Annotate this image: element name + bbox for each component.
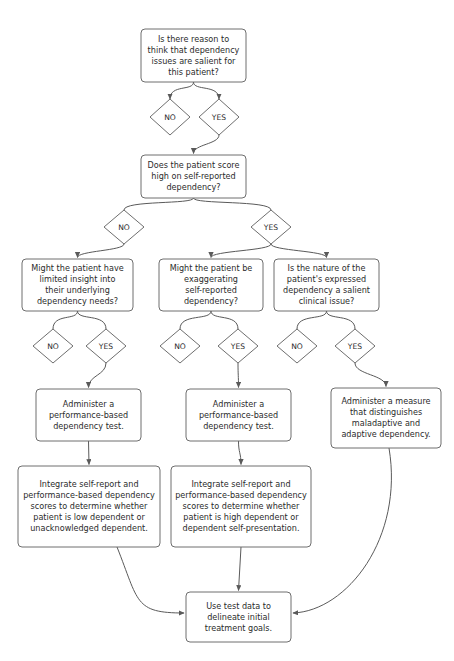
edge-q3a-yes-to-action-a (89, 363, 107, 388)
node-layer: Is there reason tothink that dependencyi… (18, 29, 441, 642)
edge-q2-to-q2-yes (194, 198, 272, 210)
node-text-line: Might the patient have (31, 263, 123, 273)
node-text-line: Integrate self-report and (191, 479, 290, 489)
node-text-line: clinical issue? (299, 296, 355, 306)
diamond-label: NO (47, 342, 59, 351)
node-text-line: limited insight into (40, 274, 116, 284)
flowchart-canvas: Is there reason tothink that dependencyi… (0, 0, 454, 661)
node-text-line: self-reported (185, 285, 237, 295)
node-text-line: scores to determine whether (183, 501, 301, 511)
node-text-line: performance-based dependency (23, 490, 155, 500)
edge-q3c-yes-to-action-c (355, 363, 386, 387)
node-action-b: Administer aperformance-baseddependency … (186, 389, 291, 441)
node-text-line: maladaptive and (352, 418, 420, 428)
node-q3c-yes: YES (335, 329, 375, 363)
node-text-line: dependency test. (203, 421, 274, 431)
edge-q3a-to-q3a-no (53, 311, 78, 329)
node-text-line: Does the patient score (148, 160, 240, 170)
edge-q2-to-q2-no (124, 198, 194, 210)
node-text-line: dependency needs? (37, 296, 118, 306)
node-text-line: Administer a (63, 399, 114, 409)
node-text-line: adaptive dependency. (341, 429, 430, 439)
edge-q3b-to-q3b-yes (211, 311, 238, 329)
edge-q3b-yes-to-action-b (238, 363, 239, 388)
edge-q1-yes-to-q2 (194, 135, 220, 154)
node-q3b-no: NO (160, 329, 200, 363)
flowchart-container: Is there reason tothink that dependencyi… (0, 0, 454, 661)
node-text-line: Administer a measure (341, 396, 430, 406)
node-final: Use test data todelineate initialtreatme… (186, 592, 291, 642)
node-text-line: dependency? (166, 182, 220, 192)
node-integrate-a: Integrate self-report andperformance-bas… (18, 466, 160, 547)
node-q3a-yes: YES (86, 329, 126, 363)
node-text-line: Integrate self-report and (39, 479, 138, 489)
node-text-line: scores to determine whether (31, 501, 149, 511)
node-text-line: Use test data to (206, 601, 271, 611)
node-q3a: Might the patient havelimited insight in… (22, 259, 133, 311)
edge-q1-to-q1-no (170, 82, 194, 99)
node-text-line: dependency? (184, 296, 238, 306)
edge-q3b-to-q3b-no (180, 311, 211, 329)
diamond-label: NO (118, 223, 130, 232)
node-text-line: patient is low dependent or (33, 512, 145, 522)
diamond-label: YES (263, 223, 278, 232)
node-text-line: Administer a (213, 399, 264, 409)
diamond-label: YES (211, 113, 226, 122)
diamond-label: NO (164, 113, 176, 122)
node-text-line: Is there reason to (158, 34, 229, 44)
node-q2-yes: YES (251, 210, 291, 244)
diamond-label: YES (230, 342, 245, 351)
edge-integrate-a-to-final (117, 547, 184, 613)
node-text-line: performance-based (49, 410, 128, 420)
node-q3b-yes: YES (218, 329, 258, 363)
edge-q3a-to-q3a-yes (78, 311, 107, 329)
node-text-line: think that dependency (148, 45, 240, 55)
node-text-line: this patient? (168, 67, 218, 77)
node-text-line: high on self-reported (151, 171, 235, 181)
node-text-line: patient's expressed (287, 274, 366, 284)
edge-q2-yes-to-q3c (271, 244, 327, 258)
node-action-c: Administer a measurethat distinguishesma… (331, 388, 441, 448)
node-integrate-b: Integrate self-report andperformance-bas… (171, 466, 311, 547)
edge-action-a-to-integrate-a (89, 441, 90, 465)
edge-q3c-to-q3c-no (297, 311, 327, 329)
node-q3c-no: NO (277, 329, 317, 363)
edge-q1-to-q1-yes (194, 82, 220, 99)
node-q1: Is there reason tothink that dependencyi… (141, 29, 246, 82)
node-q1-no: NO (150, 99, 190, 135)
diamond-label: NO (291, 342, 303, 351)
node-q2: Does the patient scorehigh on self-repor… (141, 155, 246, 198)
node-q3b: Might the patient beexaggeratingself-rep… (159, 259, 263, 311)
edge-action-b-to-integrate-b (239, 441, 242, 465)
edge-q2-no-to-q3a (78, 244, 125, 258)
edge-integrate-b-to-final (239, 547, 242, 591)
node-text-line: issues are salient for (152, 56, 237, 66)
edge-q2-yes-to-q3b (211, 244, 271, 258)
diamond-label: YES (347, 342, 362, 351)
diamond-label: NO (174, 342, 186, 351)
node-text-line: dependency a salient (283, 285, 370, 295)
node-text-line: that distinguishes (350, 407, 422, 417)
node-text-line: delineate initial (207, 612, 270, 622)
node-text-line: treatment goals. (205, 623, 272, 633)
node-q3c: Is the nature of thepatient's expressedd… (274, 259, 379, 311)
node-text-line: performance-based (199, 410, 278, 420)
node-text-line: patient is high dependent or (183, 512, 299, 522)
node-q3a-no: NO (33, 329, 73, 363)
node-text-line: performance-based dependency (175, 490, 307, 500)
edge-q3c-to-q3c-yes (327, 311, 356, 329)
diamond-label: YES (98, 342, 113, 351)
node-q1-yes: YES (199, 99, 239, 135)
node-text-line: dependent self-presentation. (183, 523, 300, 533)
node-q2-no: NO (104, 210, 144, 244)
node-text-line: their underlying (45, 285, 110, 295)
node-text-line: dependency test. (53, 421, 124, 431)
node-text-line: Might the patient be (170, 263, 253, 273)
node-text-line: unacknowledged dependent. (30, 523, 148, 533)
node-text-line: Is the nature of the (288, 263, 366, 273)
node-action-a: Administer aperformance-baseddependency … (36, 389, 141, 441)
node-text-line: exaggerating (184, 274, 238, 284)
